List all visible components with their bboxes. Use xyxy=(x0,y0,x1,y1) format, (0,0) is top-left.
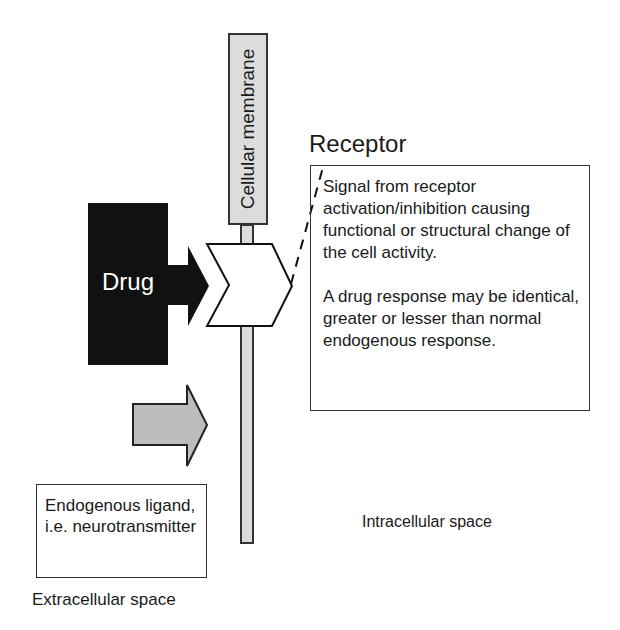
membrane-label-box: Cellular membrane xyxy=(228,33,268,225)
drug-arrow-icon xyxy=(166,246,209,326)
membrane-label: Cellular membrane xyxy=(237,49,259,210)
ligand-arrow-icon xyxy=(133,385,207,466)
endogenous-ligand-label: Endogenous ligand, i.e. neurotransmitter xyxy=(45,496,196,536)
intracellular-space-label: Intracellular space xyxy=(362,513,492,531)
endogenous-ligand-box: Endogenous ligand, i.e. neurotransmitter xyxy=(36,484,207,578)
receptor-title: Receptor xyxy=(309,130,406,158)
extracellular-space-label: Extracellular space xyxy=(32,590,176,610)
drug-label: Drug xyxy=(88,268,168,296)
receptor-description-1: Signal from receptor activation/inhibiti… xyxy=(323,176,581,264)
receptor-description-box: Signal from receptor activation/inhibiti… xyxy=(310,165,590,411)
receptor-chevron-icon xyxy=(207,244,292,326)
receptor-description-2: A drug response may be identical, greate… xyxy=(323,286,581,352)
